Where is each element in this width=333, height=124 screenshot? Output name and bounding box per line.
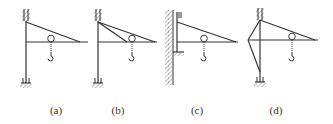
hook-icon (201, 53, 206, 61)
panel-label-d: (d) (270, 104, 283, 116)
side-strut-upper (248, 20, 260, 40)
panel-b (92, 9, 169, 88)
pulley-icon (129, 35, 136, 42)
hook-icon (289, 53, 294, 61)
wall-hatch (168, 10, 172, 85)
diagonal-tie-inner (98, 22, 127, 42)
diagonal-tie-outer (98, 22, 155, 42)
pulley-icon (48, 35, 55, 42)
panel-a (20, 9, 88, 88)
pulley-icon (201, 35, 208, 42)
hook-icon (48, 53, 53, 61)
panel-label-a: (a) (50, 104, 62, 116)
side-strut-lower (248, 40, 260, 72)
pulley-icon (289, 33, 296, 40)
diagonal-tie (260, 20, 315, 40)
panel-d (248, 8, 318, 87)
panel-label-b: (b) (112, 104, 125, 116)
ground-hatch (20, 84, 32, 88)
top-fixed-support-hatch (22, 9, 30, 21)
panel-c (168, 10, 238, 85)
hook-icon (129, 53, 134, 61)
panel-label-c: (c) (191, 104, 203, 116)
